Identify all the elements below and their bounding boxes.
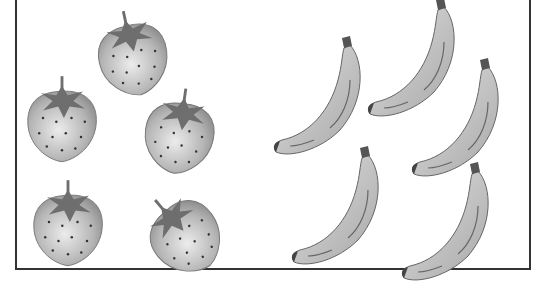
- banana-icon: [292, 146, 378, 264]
- strawberry-group: [28, 4, 237, 287]
- strawberry-icon: [28, 76, 97, 162]
- strawberry-icon: [129, 178, 236, 288]
- strawberry-icon: [34, 180, 103, 266]
- strawberry-icon: [140, 84, 220, 178]
- banana-group: [274, 0, 498, 280]
- banana-icon: [368, 0, 454, 116]
- fruit-scene: [0, 0, 534, 291]
- banana-icon: [274, 36, 360, 154]
- banana-icon: [402, 162, 488, 280]
- strawberry-icon: [90, 4, 175, 102]
